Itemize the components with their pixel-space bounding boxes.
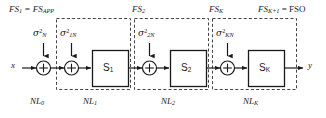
label-fs-2: FS2 (132, 5, 145, 15)
label-nl-0: NL0 (30, 97, 44, 107)
label-nl-2: NL2 (161, 97, 175, 107)
label-fs-k-plus-1: FSK+1 = FSO (258, 5, 306, 15)
label-sigma-kn: σ2KN (216, 28, 234, 39)
label-nl-k: NLK (243, 97, 258, 107)
ellipsis-indicator: ··· (208, 64, 218, 73)
adder-symbol-2 (143, 61, 157, 75)
block-label-sk: SK (259, 62, 270, 73)
label-fs-k: FSK (209, 5, 223, 15)
adder-symbol-1 (65, 61, 79, 75)
label-fs-1: FS1 = FSAPP (9, 5, 54, 15)
label-sigma-1n: σ21N (60, 28, 76, 39)
block-label-s2: S2 (181, 62, 191, 73)
block-diagram-figure: FS1 = FSAPP FS2 FSK FSK+1 = FSO σ2N σ21N… (0, 0, 326, 118)
label-sigma-2n: σ22N (138, 28, 154, 39)
label-sigma-n: σ2N (33, 28, 46, 39)
label-nl-1: NL1 (83, 97, 97, 107)
adder-symbol-k (221, 61, 235, 75)
adder-symbol-0 (37, 61, 51, 75)
label-input-x: x (11, 61, 15, 70)
label-output-y: y (308, 61, 312, 70)
block-label-s1: S1 (103, 62, 113, 73)
